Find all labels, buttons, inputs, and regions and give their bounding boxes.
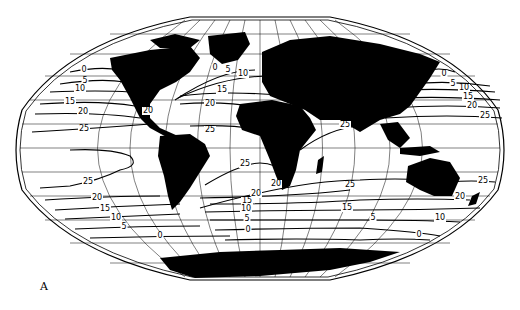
isotherm-label: 15 [463,92,473,101]
isotherm-label: 5 [121,222,126,231]
isotherm-label: 0 [245,225,250,234]
isotherm-label: 10 [111,213,121,222]
isotherm-label: 20 [467,101,477,110]
isotherm-label: 0 [416,230,421,239]
isotherm-label: 25 [79,124,89,133]
isotherm-label: 0 [81,65,86,74]
isotherm-label: 20 [251,189,261,198]
isotherm-label: 25 [480,111,490,120]
isotherm-label: 10 [241,204,251,213]
isotherm-label: 0 [441,69,446,78]
isotherm-label: 25 [83,177,93,186]
isotherm-label: 0 [157,231,162,240]
isotherm-label: 5 [225,65,230,74]
isotherm-label: 5 [370,213,375,222]
isotherm-label: 5 [244,214,249,223]
isotherm-label: 10 [459,83,469,92]
isotherm-label: 20 [78,107,88,116]
isotherm-label: 25 [240,159,250,168]
isotherm-label: 20 [271,179,281,188]
isotherm-label: 10 [435,213,445,222]
isotherm-label: 0 [212,63,217,72]
world-isotherm-map: 0510152025051015202025250510152025252520… [0,0,520,310]
isotherm-label: 20 [92,193,102,202]
isotherm-label: 15 [100,204,110,213]
isotherm-label: 25 [340,120,350,129]
isotherm-label: 20 [205,99,215,108]
isotherm-label: 25 [205,125,215,134]
isotherm-label: 10 [75,84,85,93]
isotherm-label: 5 [450,79,455,88]
isotherm-label: 25 [345,180,355,189]
isotherm-label: 15 [217,85,227,94]
isotherm-label: 15 [65,97,75,106]
isotherm-label: 25 [478,176,488,185]
isotherm-label: 15 [342,203,352,212]
isotherm-label: 20 [455,192,465,201]
isotherm-label: 20 [143,106,153,115]
panel-label: A [40,280,48,293]
isotherm-label: 10 [238,69,248,78]
